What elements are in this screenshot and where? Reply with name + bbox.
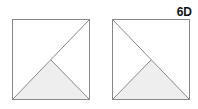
left-square — [13, 20, 90, 100]
diagram — [0, 0, 198, 109]
right-square — [113, 20, 190, 100]
